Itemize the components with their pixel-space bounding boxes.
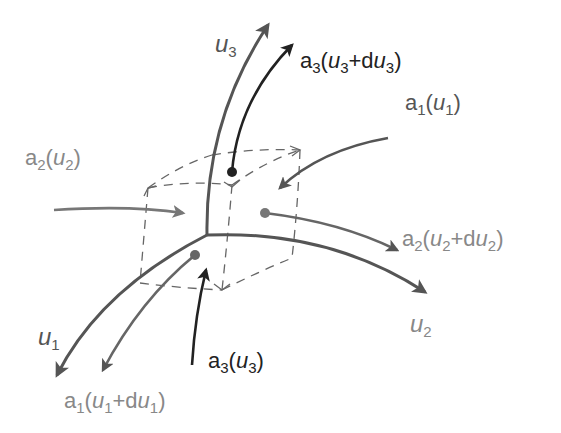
label-u2-base: u — [410, 310, 423, 337]
lbl-sub: 1 — [417, 101, 425, 118]
lbl-var-sub: 2 — [442, 237, 450, 254]
lbl-var2-sub: 3 — [386, 59, 394, 76]
lbl-sub: 2 — [414, 237, 422, 254]
axis-u1 — [57, 235, 207, 375]
lbl-var2: u — [476, 226, 488, 251]
lbl-sub: 1 — [76, 399, 84, 416]
lbl-close: ) — [158, 388, 165, 413]
lbl-var-sub: 1 — [104, 399, 112, 416]
lbl-var: u — [236, 348, 248, 373]
label-u1-base: u — [38, 323, 51, 350]
lbl-base: a — [402, 226, 414, 251]
label-u2-sub: 2 — [423, 323, 431, 340]
vector-a1-in — [280, 138, 388, 188]
lbl-open: ( — [229, 348, 236, 373]
label-u3: u3 — [215, 32, 237, 56]
lbl-var-sub: 3 — [248, 359, 256, 376]
lbl-plus-d: +d — [451, 226, 476, 251]
lbl-base: a — [64, 388, 76, 413]
lbl-var2-sub: 1 — [150, 399, 158, 416]
label-a1-u1-du1: a1(u1+du1) — [64, 390, 166, 412]
lbl-var: u — [53, 145, 65, 170]
lbl-var-sub: 3 — [340, 59, 348, 76]
vector-a3-bottom — [192, 270, 206, 365]
lbl-base: a — [208, 348, 220, 373]
label-u1: u1 — [38, 325, 60, 349]
cube-corner-ticks — [144, 146, 300, 290]
lbl-close: ) — [394, 48, 401, 73]
label-u3-base: u — [215, 30, 228, 57]
lbl-sub: 2 — [37, 156, 45, 173]
lbl-var2-sub: 2 — [488, 237, 496, 254]
lbl-var: u — [92, 388, 104, 413]
label-a3-u3: a3(u3) — [208, 350, 264, 372]
lbl-var-sub: 2 — [65, 156, 73, 173]
lbl-sub: 3 — [220, 359, 228, 376]
lbl-close: ) — [74, 145, 81, 170]
lbl-base: a — [25, 145, 37, 170]
coordinate-diagram: u3 a3(u3+du3) a1(u1) a2(u2) a2(u2+du2) u… — [0, 0, 561, 433]
lbl-var: u — [328, 48, 340, 73]
lbl-close: ) — [454, 90, 461, 115]
vector-a3-top — [232, 45, 292, 172]
lbl-open: ( — [426, 90, 433, 115]
lbl-open: ( — [321, 48, 328, 73]
label-a2-u2: a2(u2) — [25, 147, 81, 169]
lbl-open: ( — [85, 388, 92, 413]
lbl-var-sub: 1 — [445, 101, 453, 118]
lbl-sub: 3 — [312, 59, 320, 76]
label-u2: u2 — [410, 312, 432, 336]
lbl-var: u — [430, 226, 442, 251]
vector-a1-out — [103, 255, 195, 370]
lbl-plus-d: +d — [349, 48, 374, 73]
vector-a2-out — [265, 213, 397, 250]
diagram-canvas — [0, 0, 561, 433]
lbl-plus-d: +d — [113, 388, 138, 413]
lbl-close: ) — [257, 348, 264, 373]
lbl-open: ( — [423, 226, 430, 251]
lbl-base: a — [405, 90, 417, 115]
label-a1-u1: a1(u1) — [405, 92, 461, 114]
dashed-volume-element — [140, 150, 300, 290]
label-a2-u2-du2: a2(u2+du2) — [402, 228, 504, 250]
flux-vectors — [54, 45, 397, 370]
lbl-var2: u — [374, 48, 386, 73]
axis-u2 — [207, 235, 425, 292]
label-u1-sub: 1 — [51, 336, 59, 353]
lbl-close: ) — [496, 226, 503, 251]
lbl-base: a — [300, 48, 312, 73]
lbl-var2: u — [138, 388, 150, 413]
axis-curves — [57, 25, 425, 375]
label-u3-sub: 3 — [228, 43, 236, 60]
lbl-open: ( — [46, 145, 53, 170]
lbl-var: u — [433, 90, 445, 115]
vector-a2-in — [54, 208, 183, 213]
label-a3-u3-du3: a3(u3+du3) — [300, 50, 402, 72]
